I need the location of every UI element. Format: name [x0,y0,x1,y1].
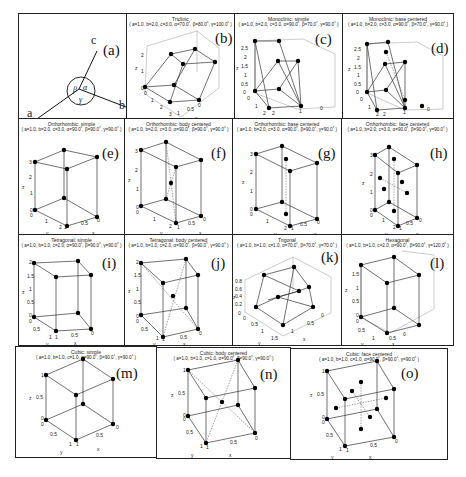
y-tick: 0.5 [251,321,258,327]
panel-c-monoclinic-simple: Monoclinic: simple ( a=1.0, b=2.0, c=3.0… [234,13,343,119]
angle-beta-label: β [72,85,77,94]
y-axis-label: y [331,454,334,460]
y-tick: 0.5 [50,431,57,437]
y-tick: 0 [370,212,373,218]
z-tick: 1.5 [134,272,141,278]
z-axis-label: z [310,392,313,398]
x-tick: 0.5 [180,334,187,340]
lattice-plot: 0 0.5 1 1.5 2 2.5 z 0 1 2 2 1 0 y x [343,14,454,119]
y-tick: 2 [263,110,266,116]
z-axis-label: z [22,184,25,190]
z-tick: 2 [244,54,247,60]
z-tick: 1.5 [27,273,34,279]
z-tick: 0.6 [235,286,242,292]
y-tick: 0 [29,318,32,324]
z-tick: 3 [29,159,32,165]
z-tick: 1 [370,189,373,195]
panel-b-triclinic: Triclinic ( a=1.0, b=2.0, c=3.0, α=70.0˚… [126,13,235,119]
y-tick: 2 [376,111,379,117]
x-tick: 0.5 [230,439,237,445]
z-tick: 1 [29,286,32,292]
x-tick: 0 [320,105,323,111]
z-tick: 1.5 [241,63,248,69]
panel-n-cubic-body-centered: Cubic: body centered ( a=1.0, b=1.0, c=1… [156,347,291,459]
y-tick: 0.5 [358,327,365,333]
x-tick: 0.5 [370,442,377,448]
z-tick: 3 [135,148,138,154]
lattice-plot: 0 0.5 1 1.5 2 2.5 z 0 1 2 2 1 0 y x [235,14,343,119]
x-tick: 0 [395,438,398,444]
z-tick: 2.5 [241,45,248,51]
z-tick: 1 [357,72,360,78]
y-tick: 1 [368,104,371,110]
y-tick: 0 [41,421,44,427]
panel-k-trigonal: Trigonal ( a=1.0, b=1.0, c=1.0, α=70.0˚,… [232,234,342,346]
lattice-plot: 0 1 2 3 z 0 1 2 1 0.5 0 y x [342,119,454,235]
panel-e-orthorhombic-simple: Orthorhombic: simple ( a=1.0, b=2.0, c=3… [18,118,125,235]
x-tick: 1 [55,334,58,340]
y-tick: 1 [151,97,154,103]
y-tick: 0 [30,212,33,218]
x-axis-label: x [369,454,372,460]
z-axis-label: z [242,179,245,185]
x-tick: 0 [97,217,100,223]
x-tick: 1 [177,224,180,230]
z-tick: 3 [370,152,373,158]
panel-h-orthorhombic-face-centered: Orthorhombic: face centered ( a=1.0, b=2… [341,118,454,235]
x-tick: 0.5 [71,332,78,338]
x-tick: 0.5 [188,220,195,226]
x-tick: 1 [291,328,294,334]
z-tick: 1 [136,286,139,292]
y-tick: 1 [49,334,52,340]
panel-i-tetragonal-simple: Tetragonal: simple ( a=1.0, b=1.0, c=2.0… [18,234,125,346]
x-axis-label: x [97,446,100,452]
panel-d-monoclinic-base-centered: Monoclinic: base centered ( a=1.0, b=2.0… [342,13,454,119]
x-tick: 0 [427,106,430,112]
z-tick: 0.5 [178,390,185,396]
z-tick: 1 [244,72,247,78]
y-tick: 1 [372,335,375,341]
x-tick: 0 [255,435,258,441]
y-tick: 2 [393,224,396,230]
z-tick: 0.4 [235,293,242,299]
x-axis-label: x [183,341,186,346]
x-tick: 2 [272,110,275,116]
y-tick: 1 [69,441,72,447]
y-tick: 1 [266,218,269,224]
z-tick: 1.5 [352,271,359,277]
lattice-plot: 0 0.5 1 z 0 0.5 1 1 0.5 0 y x [157,348,291,459]
y-axis-label: y [361,341,364,346]
z-tick: 0.5 [352,298,359,304]
y-tick: 2 [169,223,172,229]
x-tick: 1 [64,224,67,230]
y-tick: 1 [382,217,385,223]
lattice-plot: 0 1 2 z 0 1 2 3 1 0.5 0 y x [127,14,235,119]
panel-label: (a) [103,42,120,59]
y-tick: 0 [250,211,253,217]
panel-f-orthorhombic-body-centered: Orthorhombic: body centered ( a=1.0, b=2… [124,118,233,235]
y-tick: 0.5 [141,326,148,332]
x-axis-label: x [392,341,395,346]
z-tick: 1 [30,190,33,196]
y-tick: 0 [356,318,359,324]
x-tick: 0 [91,330,94,336]
z-tick: 0.5 [317,391,324,397]
y-tick: 0 [136,318,139,324]
x-tick: 1 [346,447,349,453]
x-tick: 0 [317,219,320,225]
x-tick: 0 [203,216,206,222]
y-tick: 1 [200,443,203,449]
lattice-plot: 0 0.5 1 1.5 z 0 0.5 1 0.5 0 y x [342,235,454,346]
x-tick: 0 [403,331,406,337]
panel-m-cubic-simple: Cubic: simple ( a=1.0, b=1.0, c=1.0, α=9… [15,346,157,458]
z-tick: 0.5 [354,81,361,87]
z-tick: 0.5 [241,81,248,87]
z-tick: 1 [136,186,139,192]
y-axis-label: y [258,340,261,346]
z-tick: 0.5 [134,299,141,305]
x-tick: 1 [162,336,165,342]
panel-a-axes-definition: c b a β α γ (a) [18,13,127,119]
z-tick: 1 [141,68,144,74]
z-tick: 1 [183,367,186,373]
lattice-plot: 0 0.5 1 z 0 0.5 1 1 0.5 0 y x [16,347,157,458]
